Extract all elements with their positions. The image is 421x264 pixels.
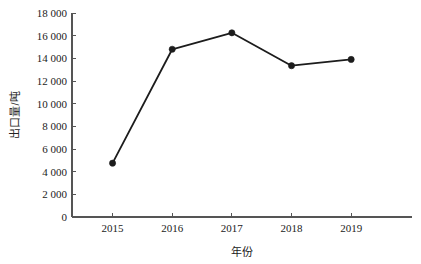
- y-tick-label: 8 000: [42, 120, 67, 132]
- y-tick-label: 16 000: [37, 30, 68, 42]
- x-axis-title: 年份: [231, 245, 253, 258]
- x-tick-label: 2019: [340, 222, 363, 234]
- data-point: [348, 56, 354, 62]
- y-tick-label: 0: [62, 211, 68, 223]
- y-tick-label: 6 000: [42, 143, 67, 155]
- x-tick-label: 2018: [281, 222, 304, 234]
- y-tick-label: 2 000: [42, 188, 67, 200]
- y-tick-label: 18 000: [37, 7, 68, 19]
- y-tick-label: 14 000: [37, 52, 68, 64]
- data-point: [288, 63, 294, 69]
- x-tick-label: 2017: [221, 222, 244, 234]
- line-chart-figure: 02 0004 0006 0008 00010 00012 00014 0001…: [0, 0, 421, 264]
- y-tick-label: 12 000: [37, 75, 68, 87]
- data-point: [229, 30, 235, 36]
- x-tick-label: 2016: [161, 222, 184, 234]
- y-tick-label: 10 000: [37, 98, 68, 110]
- y-axis-title: 出口量/吨: [8, 91, 21, 138]
- y-tick-label: 4 000: [42, 166, 67, 178]
- data-point: [109, 160, 115, 166]
- chart-canvas: 02 0004 0006 0008 00010 00012 00014 0001…: [0, 0, 421, 264]
- data-point: [169, 46, 175, 52]
- x-tick-label: 2015: [102, 222, 125, 234]
